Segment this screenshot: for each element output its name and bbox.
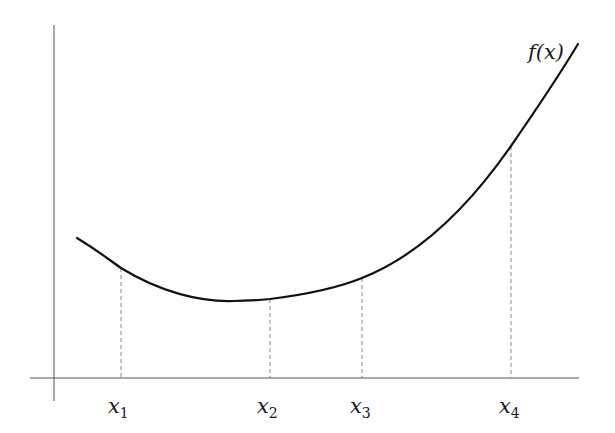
- point-label-x1: x1: [108, 394, 129, 421]
- function-curve: [77, 44, 578, 301]
- point-label-x3: x3: [350, 394, 371, 421]
- function-label: f(x): [526, 40, 564, 64]
- point-label-x2: x2: [257, 394, 278, 421]
- point-label-x4: x4: [499, 394, 520, 421]
- function-diagram: f(x) x1 x2 x3 x4: [0, 0, 615, 433]
